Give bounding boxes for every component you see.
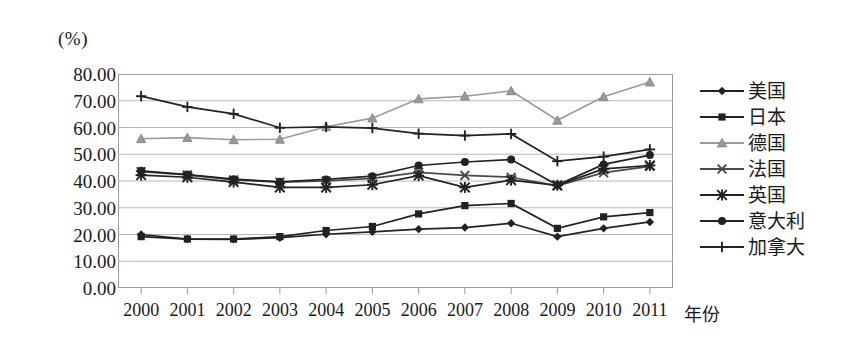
- legend-item[interactable]: 英国: [700, 182, 840, 208]
- data-point-square: [138, 233, 145, 240]
- data-point-square: [323, 227, 330, 234]
- legend: 美国日本德国法国英国意大利加拿大: [700, 78, 840, 260]
- data-point-diamond: [461, 223, 469, 231]
- data-point-asterisk: [644, 160, 655, 171]
- legend-item-label: 美国: [748, 82, 786, 101]
- x-axis-tick-label: 2008: [493, 300, 529, 321]
- data-point-square: [600, 213, 607, 220]
- data-point-diamond: [646, 218, 654, 226]
- data-point-square: [369, 223, 376, 230]
- data-point-asterisk: [716, 189, 727, 200]
- y-axis-tick-label: 20.00: [54, 225, 116, 244]
- y-axis-unit-label: (%): [58, 28, 88, 50]
- x-axis-tick-label: 2010: [586, 300, 622, 321]
- x-axis-tick-label: 2005: [354, 300, 390, 321]
- data-point-square: [276, 233, 283, 240]
- data-point-plus: [228, 109, 238, 119]
- data-point-plus: [598, 151, 608, 161]
- data-point-circle: [276, 178, 284, 186]
- legend-item[interactable]: 意大利: [700, 208, 840, 234]
- legend-item-label: 加拿大: [748, 238, 805, 257]
- data-point-triangle: [717, 138, 726, 147]
- data-point-plus: [136, 91, 146, 101]
- x-axis-title: 年份: [684, 300, 720, 326]
- x-axis-tick-label: 2000: [123, 300, 159, 321]
- data-point-diamond: [553, 232, 561, 240]
- data-point-plus: [717, 242, 727, 252]
- x-axis-tick-label: 2002: [216, 300, 252, 321]
- data-point-diamond: [414, 225, 422, 233]
- legend-item[interactable]: 日本: [700, 104, 840, 130]
- data-point-square: [415, 210, 422, 217]
- data-point-circle: [183, 171, 191, 179]
- legend-item-label: 法国: [748, 160, 786, 179]
- series-line: [141, 166, 650, 186]
- legend-marker-cross-x-icon: [700, 159, 744, 179]
- legend-item-label: 德国: [748, 134, 786, 153]
- x-axis-tick-labels: 2000200120022003200420052006200720082009…: [118, 300, 673, 324]
- legend-item[interactable]: 法国: [700, 156, 840, 182]
- data-point-circle: [137, 167, 145, 175]
- data-point-square: [184, 235, 191, 242]
- data-point-plus: [367, 123, 377, 133]
- legend-marker-asterisk-icon: [700, 185, 744, 205]
- data-point-plus: [506, 129, 516, 139]
- data-point-cross-x: [718, 165, 727, 174]
- data-point-asterisk: [321, 182, 332, 193]
- legend-item-label: 意大利: [748, 212, 805, 231]
- y-axis-tick-label: 70.00: [54, 91, 116, 110]
- series-layer: [118, 74, 673, 288]
- y-axis-tick-label: 60.00: [54, 118, 116, 137]
- plot-area: [118, 74, 673, 288]
- series-line: [141, 96, 650, 161]
- series-line: [141, 165, 650, 187]
- x-axis-tick-label: 2011: [632, 300, 667, 321]
- data-point-plus: [460, 130, 470, 140]
- data-point-triangle: [645, 77, 654, 86]
- data-point-asterisk: [367, 179, 378, 190]
- x-axis-tick-label: 2001: [169, 300, 205, 321]
- data-point-circle: [718, 217, 726, 225]
- data-point-circle: [230, 175, 238, 183]
- data-point-asterisk: [459, 182, 470, 193]
- y-axis-tick-label: 80.00: [54, 65, 116, 84]
- data-point-triangle: [553, 116, 562, 125]
- y-axis-tick-label: 50.00: [54, 145, 116, 164]
- data-point-plus: [645, 144, 655, 154]
- data-point-circle: [553, 181, 561, 189]
- x-axis-tick-label: 2009: [539, 300, 575, 321]
- data-point-square: [718, 113, 725, 120]
- y-axis-tick-label: 10.00: [54, 252, 116, 271]
- data-point-circle: [507, 156, 515, 164]
- x-axis-tick-label: 2006: [401, 300, 437, 321]
- legend-item-label: 英国: [748, 186, 786, 205]
- legend-item[interactable]: 加拿大: [700, 234, 840, 260]
- data-point-plus: [552, 156, 562, 166]
- y-axis-tick-label: 30.00: [54, 198, 116, 217]
- legend-item[interactable]: 德国: [700, 130, 840, 156]
- x-axis-tick-label: 2007: [447, 300, 483, 321]
- x-axis-tick-label: 2003: [262, 300, 298, 321]
- data-point-diamond: [599, 224, 607, 232]
- data-point-square: [461, 202, 468, 209]
- data-point-square: [554, 225, 561, 232]
- data-point-square: [646, 209, 653, 216]
- legend-marker-circle-icon: [700, 211, 744, 231]
- data-point-square: [508, 200, 515, 207]
- data-point-diamond: [507, 219, 515, 227]
- legend-marker-plus-icon: [700, 237, 744, 257]
- data-point-diamond: [718, 87, 726, 95]
- legend-item[interactable]: 美国: [700, 78, 840, 104]
- data-point-circle: [368, 172, 376, 180]
- y-axis-tick-label: 40.00: [54, 172, 116, 191]
- y-axis-tick-label: 0.00: [54, 279, 116, 298]
- line-chart: (%) 80.0070.0060.0050.0040.0030.0020.001…: [0, 0, 846, 350]
- data-point-plus: [413, 128, 423, 138]
- y-axis-tick-labels: 80.0070.0060.0050.0040.0030.0020.0010.00…: [50, 74, 116, 288]
- data-point-asterisk: [413, 170, 424, 181]
- legend-item-label: 日本: [748, 108, 786, 127]
- legend-marker-triangle-icon: [700, 133, 744, 153]
- data-point-plus: [275, 123, 285, 133]
- legend-marker-diamond-icon: [700, 81, 744, 101]
- data-point-circle: [415, 161, 423, 169]
